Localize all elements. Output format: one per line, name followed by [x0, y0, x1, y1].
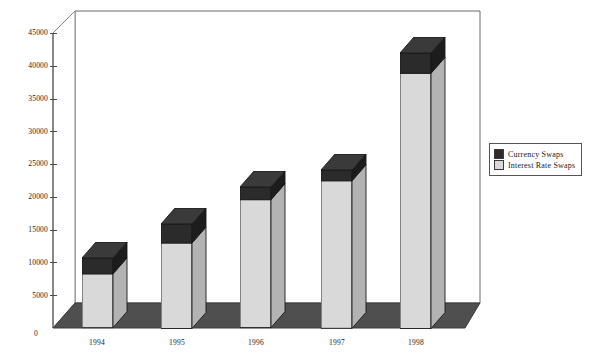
bar-1997 [321, 154, 368, 330]
y-tick-label: 25000 [2, 160, 48, 168]
y-tick-label: 0 [0, 330, 38, 338]
bar-segment-interest-rate-swaps-side-1996 [271, 184, 285, 328]
y-tick-label: 40000 [2, 62, 48, 70]
bar-segment-interest-rate-swaps-front-1998 [400, 73, 431, 328]
bar-1996 [240, 171, 287, 330]
x-tick-label-1996: 1996 [236, 338, 276, 347]
bar-segment-interest-rate-swaps-front-1997 [321, 180, 352, 328]
bar-1994 [82, 242, 129, 330]
y-tick-mark [50, 99, 57, 100]
x-tick-label-1998: 1998 [396, 338, 436, 347]
y-tick-mark [50, 164, 57, 165]
legend-swatch-interest-rate-swaps [494, 160, 504, 170]
bar-1995 [161, 208, 208, 331]
legend-item-currency-swaps: Currency Swaps [494, 149, 575, 159]
bar-segment-currency-swaps-front-1995 [161, 224, 192, 243]
bar-segment-currency-swaps-front-1994 [82, 258, 113, 274]
legend-item-interest-rate-swaps: Interest Rate Swaps [494, 160, 575, 170]
y-tick-mark [50, 66, 57, 67]
x-tick-label-1995: 1995 [157, 338, 197, 347]
y-tick-label: 45000 [2, 29, 48, 37]
bar-segment-interest-rate-swaps-side-1998 [431, 57, 445, 328]
bar-segment-currency-swaps-front-1998 [400, 53, 431, 73]
y-tick-mark [50, 262, 57, 263]
x-tick-label-1997: 1997 [317, 338, 357, 347]
legend-label-currency-swaps: Currency Swaps [508, 150, 563, 159]
y-tick-mark [50, 197, 57, 198]
bar-segment-currency-swaps-front-1997 [321, 170, 352, 181]
bar-1998 [400, 37, 447, 331]
stacked-column-chart: 45000 40000 35000 30000 25000 20000 1500… [0, 0, 603, 356]
y-tick-mark [50, 295, 57, 296]
y-tick-label: 30000 [2, 128, 48, 136]
bar-segment-interest-rate-swaps-side-1995 [192, 227, 206, 329]
y-tick-mark [50, 131, 57, 132]
y-tick-label: 15000 [2, 226, 48, 234]
legend-swatch-currency-swaps [494, 149, 504, 159]
y-tick-label: 5000 [2, 292, 48, 300]
bar-segment-interest-rate-swaps-front-1994 [82, 274, 113, 328]
x-tick-label-1994: 1994 [77, 338, 117, 347]
y-tick-mark [50, 33, 57, 34]
bar-segment-interest-rate-swaps-front-1995 [161, 243, 192, 329]
bar-segment-interest-rate-swaps-side-1997 [352, 164, 366, 328]
bar-segment-interest-rate-swaps-front-1996 [240, 200, 271, 328]
y-tick-label: 35000 [2, 95, 48, 103]
bar-segment-currency-swaps-front-1996 [240, 187, 271, 200]
y-tick-label: 20000 [2, 193, 48, 201]
y-tick-mark [50, 230, 57, 231]
legend-label-interest-rate-swaps: Interest Rate Swaps [508, 161, 575, 170]
y-tick-label: 10000 [2, 259, 48, 267]
y-axis: 45000 40000 35000 30000 25000 20000 1500… [0, 0, 48, 356]
legend: Currency Swaps Interest Rate Swaps [489, 143, 582, 176]
